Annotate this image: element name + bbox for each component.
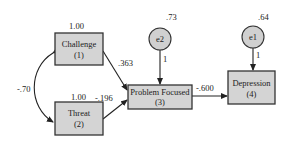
e1-label: e1 — [249, 32, 257, 42]
depression-index: (4) — [247, 89, 257, 99]
coef-e2: 1 — [163, 54, 167, 64]
depression-label: Depression — [232, 78, 271, 88]
challenge-variance: 1.00 — [69, 21, 84, 31]
threat-variance: 1.00 — [71, 92, 86, 102]
node-e2[interactable]: e2 — [149, 28, 171, 50]
path-diagram: -.70 .363 -.196 -.600 1 1 Challenge (1) … — [0, 0, 289, 146]
problem-focused-index: (3) — [155, 97, 165, 107]
covariance-label: -.70 — [17, 84, 30, 94]
threat-label: Threat — [68, 108, 91, 118]
e1-variance: .64 — [258, 12, 269, 22]
challenge-label: Challenge — [62, 39, 97, 49]
node-e1[interactable]: e1 — [242, 26, 264, 48]
e2-label: e2 — [156, 34, 164, 44]
problem-focused-label: Problem Focused — [130, 87, 190, 97]
threat-index: (2) — [74, 119, 84, 129]
edge-challenge-pf — [103, 51, 127, 90]
challenge-index: (1) — [74, 50, 84, 60]
coef-challenge-pf: .363 — [118, 58, 133, 68]
e2-variance: .73 — [166, 12, 177, 22]
coef-pf-depression: -.600 — [196, 83, 214, 93]
covariance-arc — [34, 53, 53, 122]
node-depression[interactable]: Depression (4) — [228, 71, 275, 104]
node-challenge[interactable]: Challenge (1) — [55, 33, 103, 65]
coef-e1: 1 — [256, 50, 260, 60]
node-threat[interactable]: Threat (2) — [55, 102, 103, 135]
node-problem-focused[interactable]: Problem Focused (3) — [128, 85, 192, 109]
